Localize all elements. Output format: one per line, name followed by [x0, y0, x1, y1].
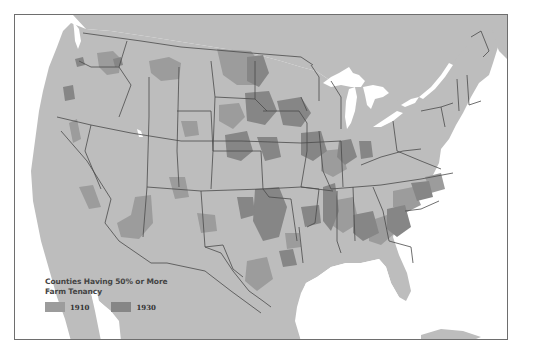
cuba-island	[421, 329, 481, 340]
legend-label-1930: 1930	[136, 303, 155, 312]
map-frame: Counties Having 50% or More Farm Tenancy…	[14, 14, 508, 340]
legend-title-line2: Farm Tenancy	[45, 287, 178, 297]
legend-swatch-1910	[45, 302, 65, 312]
legend-title-line1: Counties Having 50% or More	[45, 277, 178, 287]
map-legend: Counties Having 50% or More Farm Tenancy…	[45, 277, 178, 312]
legend-label-1910: 1910	[70, 303, 89, 312]
legend-swatch-1930	[111, 302, 131, 312]
legend-items: 1910 1930	[45, 302, 178, 312]
